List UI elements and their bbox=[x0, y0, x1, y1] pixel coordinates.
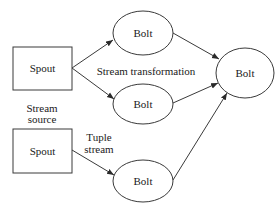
stream-transformation-annotation: Stream transformation bbox=[97, 65, 196, 77]
bolt-right-node: Bolt bbox=[216, 48, 274, 98]
bolt-right-label: Bolt bbox=[236, 67, 255, 79]
bolt-bottom-label: Bolt bbox=[134, 175, 153, 187]
tuple-stream-annotation-line2: stream bbox=[84, 143, 114, 155]
bolt-top-node: Bolt bbox=[113, 11, 173, 55]
spout-bottom-node: Spout bbox=[13, 129, 72, 173]
edge-bolt-middle-to-bolt-right bbox=[173, 83, 218, 103]
bolt-middle-label: Bolt bbox=[134, 98, 153, 110]
bolt-bottom-node: Bolt bbox=[113, 160, 173, 202]
edge-bolt-top-to-bolt-right bbox=[173, 33, 219, 59]
storm-topology-diagram: Spout Spout Bolt Bolt Bolt Bolt Stream t… bbox=[0, 0, 279, 209]
edge-spout-top-to-bolt-top bbox=[72, 40, 113, 68]
spout-bottom-label: Spout bbox=[30, 145, 56, 157]
stream-source-annotation-line2: source bbox=[28, 113, 57, 125]
bolt-middle-node: Bolt bbox=[113, 84, 173, 124]
bolt-top-label: Bolt bbox=[134, 27, 153, 39]
spout-top-node: Spout bbox=[13, 47, 72, 90]
tuple-stream-annotation-line1: Tuple bbox=[86, 131, 111, 143]
edge-bolt-bottom-to-bolt-right bbox=[173, 93, 227, 180]
spout-top-label: Spout bbox=[30, 62, 56, 74]
